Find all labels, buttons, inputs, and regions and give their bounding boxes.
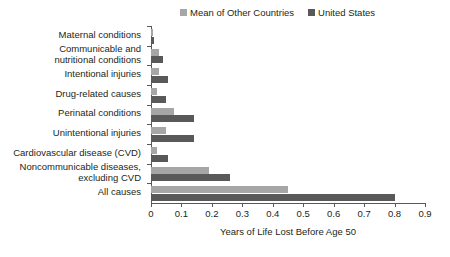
bar-united-states bbox=[151, 194, 395, 201]
x-axis-tick-label: 0.7 bbox=[358, 208, 371, 219]
y-axis-category-label: Drug-related causes bbox=[0, 89, 147, 100]
bar-group bbox=[151, 124, 425, 144]
x-axis-tick bbox=[151, 203, 152, 207]
y-axis-tick bbox=[147, 144, 151, 145]
y-axis-category-label-line: Noncommunicable diseases, bbox=[0, 162, 141, 173]
y-axis-category-label-line: All causes bbox=[0, 187, 141, 198]
x-axis-tick bbox=[181, 203, 182, 207]
y-axis-tick bbox=[147, 164, 151, 165]
x-axis-tick bbox=[334, 203, 335, 207]
bar-group bbox=[151, 144, 425, 164]
x-axis-tick bbox=[212, 203, 213, 207]
y-axis-category-label: Cardiovascular disease (CVD) bbox=[0, 148, 147, 159]
y-axis-category-label-line: Intentional injuries bbox=[0, 69, 141, 80]
y-axis-category-label: All causes bbox=[0, 187, 147, 198]
bar-mean-of-other-countries bbox=[151, 147, 157, 154]
bar-group bbox=[151, 105, 425, 125]
chart-container: Mean of Other Countries United States Ma… bbox=[0, 0, 450, 257]
bar-group bbox=[151, 183, 425, 203]
y-axis-tick bbox=[147, 65, 151, 66]
x-axis-tick-label: 0.1 bbox=[175, 208, 188, 219]
x-axis-tick bbox=[242, 203, 243, 207]
y-axis-category-label-line: Unintentional injuries bbox=[0, 128, 141, 139]
legend-swatch-icon-united-states bbox=[308, 9, 315, 16]
y-axis-category-label: Intentional injuries bbox=[0, 69, 147, 80]
bar-mean-of-other-countries bbox=[151, 186, 288, 193]
bar-group bbox=[151, 65, 425, 85]
y-axis-tick bbox=[147, 124, 151, 125]
y-axis-category-label: Perinatal conditions bbox=[0, 108, 147, 119]
bar-mean-of-other-countries bbox=[151, 167, 209, 174]
y-axis-category-label-line: Drug-related causes bbox=[0, 89, 141, 100]
x-axis-tick-label: 0 bbox=[148, 208, 153, 219]
x-axis-title: Years of Life Lost Before Age 50 bbox=[151, 226, 425, 237]
x-axis-tick-label: 0.3 bbox=[236, 208, 249, 219]
plot-area bbox=[151, 26, 425, 203]
y-axis-category-label-line: excluding CVD bbox=[0, 173, 141, 184]
bar-mean-of-other-countries bbox=[151, 49, 159, 56]
x-axis-tick bbox=[273, 203, 274, 207]
y-axis-category-label: Noncommunicable diseases,excluding CVD bbox=[0, 162, 147, 183]
x-axis-tick-label: 0.8 bbox=[388, 208, 401, 219]
x-axis-tick-label: 0.6 bbox=[327, 208, 340, 219]
bar-united-states bbox=[151, 174, 230, 181]
y-axis-category-label-line: nutritional conditions bbox=[0, 55, 141, 66]
bar-mean-of-other-countries bbox=[151, 127, 166, 134]
bar-united-states bbox=[151, 76, 168, 83]
bar-group bbox=[151, 85, 425, 105]
bar-group bbox=[151, 164, 425, 184]
bar-group bbox=[151, 26, 425, 46]
y-axis-category-label-line: Maternal conditions bbox=[0, 30, 141, 41]
legend-item-united-states: United States bbox=[308, 8, 375, 18]
x-axis-tick-label: 0.2 bbox=[205, 208, 218, 219]
y-axis-tick bbox=[147, 183, 151, 184]
legend-label-united-states: United States bbox=[318, 8, 375, 18]
bar-united-states bbox=[151, 96, 166, 103]
x-axis-tick bbox=[425, 203, 426, 207]
bar-united-states bbox=[151, 37, 154, 44]
bar-mean-of-other-countries bbox=[151, 108, 174, 115]
bar-united-states bbox=[151, 135, 194, 142]
y-axis-tick bbox=[147, 105, 151, 106]
y-axis-labels: Maternal conditionsCommunicable andnutri… bbox=[0, 26, 147, 203]
bar-united-states bbox=[151, 115, 194, 122]
y-axis-category-label-line: Perinatal conditions bbox=[0, 108, 141, 119]
x-axis-tick-label: 0.9 bbox=[418, 208, 431, 219]
y-axis-category-label-line: Communicable and bbox=[0, 44, 141, 55]
x-axis-tick bbox=[395, 203, 396, 207]
x-axis-tick-labels: 00.10.20.30.40.50.60.70.80.9 bbox=[151, 208, 425, 222]
x-axis-tick bbox=[303, 203, 304, 207]
y-axis-category-label: Unintentional injuries bbox=[0, 128, 147, 139]
legend-swatch-icon-mean-of-other-countries bbox=[180, 9, 187, 16]
x-axis-line bbox=[151, 203, 425, 204]
chart-legend: Mean of Other Countries United States bbox=[180, 8, 445, 18]
bar-group bbox=[151, 46, 425, 66]
y-axis-tick bbox=[147, 46, 151, 47]
x-axis-tick-label: 0.4 bbox=[266, 208, 279, 219]
y-axis-tick bbox=[147, 85, 151, 86]
x-axis-tick bbox=[364, 203, 365, 207]
bar-mean-of-other-countries bbox=[151, 68, 159, 75]
legend-item-mean-of-other-countries: Mean of Other Countries bbox=[180, 8, 294, 18]
bar-united-states bbox=[151, 155, 168, 162]
x-axis-tick-label: 0.5 bbox=[297, 208, 310, 219]
y-axis-category-label: Maternal conditions bbox=[0, 30, 147, 41]
y-axis-category-label-line: Cardiovascular disease (CVD) bbox=[0, 148, 141, 159]
legend-label-mean-of-other-countries: Mean of Other Countries bbox=[190, 8, 294, 18]
bar-mean-of-other-countries bbox=[151, 88, 157, 95]
y-axis-category-label: Communicable andnutritional conditions bbox=[0, 44, 147, 65]
y-axis-tick bbox=[147, 26, 151, 27]
bar-mean-of-other-countries bbox=[151, 29, 153, 36]
bar-united-states bbox=[151, 56, 163, 63]
